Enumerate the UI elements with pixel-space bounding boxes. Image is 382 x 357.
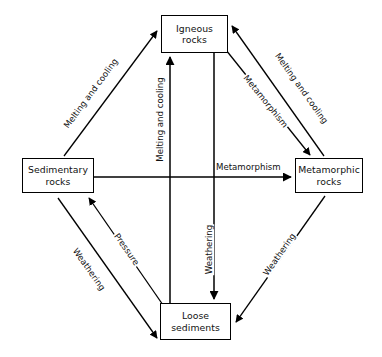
node-metamorphic-rocks[interactable]: Metamorphic rocks [295,158,363,193]
node-igneous-line2: rocks [182,34,207,46]
edge-label-weathering-vertical: Weathering [205,224,214,275]
edge-label-melting-cooling-vertical: Melting and cooling [156,76,165,162]
node-sedimentary-line2: rocks [46,176,71,188]
edge-sedimentary-to-igneous [64,31,157,156]
node-sedimentary-line1: Sedimentary [28,164,88,176]
node-loose-line2: sediments [171,322,220,334]
node-loose-sediments[interactable]: Loose sediments [160,303,231,340]
node-loose-line1: Loose [182,310,209,322]
node-igneous-line1: Igneous [176,23,213,35]
node-metamorphic-line1: Metamorphic [298,164,360,176]
node-sedimentary-rocks[interactable]: Sedimentary rocks [22,158,94,193]
node-igneous-rocks[interactable]: Igneous rocks [161,15,228,53]
node-metamorphic-line2: rocks [317,176,342,188]
rock-cycle-diagram: Igneous rocks Sedimentary rocks Metamorp… [0,0,382,357]
edge-label-metamorphism-horizontal: Metamorphism [215,163,282,172]
edge-sedimentary-to-loose [58,198,157,338]
